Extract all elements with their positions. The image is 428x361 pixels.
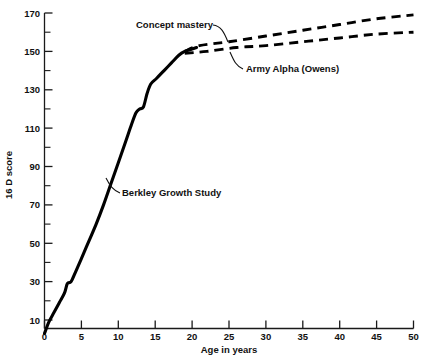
y-tick-label: 170 xyxy=(24,8,40,19)
x-tick-label: 25 xyxy=(224,331,235,342)
army-alpha-leader-line xyxy=(230,52,243,69)
concept-mastery-leader-line xyxy=(213,25,228,42)
x-tick-label: 20 xyxy=(187,331,198,342)
annotation-concept-mastery: Concept mastery xyxy=(136,19,214,30)
series-group xyxy=(45,15,414,334)
x-tick-labels: 0 5 10 15 20 25 30 35 40 45 50 xyxy=(42,331,419,342)
annotation-berkley-growth-study: Berkley Growth Study xyxy=(122,187,222,198)
annotation-army-alpha-owens: Army Alpha (Owens) xyxy=(246,63,339,74)
y-tick-label: 30 xyxy=(29,276,40,287)
y-tick-label: 130 xyxy=(24,84,40,95)
chart-svg: 170 150 130 110 90 70 50 30 10 0 xyxy=(0,0,428,361)
x-tick-label: 45 xyxy=(371,331,382,342)
y-tick-labels: 170 150 130 110 90 70 50 30 10 xyxy=(24,8,40,326)
x-tick-label: 10 xyxy=(113,331,124,342)
x-ticks-group xyxy=(45,321,414,329)
y-tick-label: 150 xyxy=(24,46,40,57)
y-tick-label: 50 xyxy=(29,238,40,249)
y-axis-title: 16 D score xyxy=(3,151,14,199)
y-tick-label: 90 xyxy=(29,161,40,172)
x-tick-label: 50 xyxy=(408,331,419,342)
x-tick-label: 15 xyxy=(150,331,161,342)
chart-figure: 170 150 130 110 90 70 50 30 10 0 xyxy=(0,0,428,361)
annotation-labels: Concept mastery Army Alpha (Owens) Berkl… xyxy=(122,19,339,198)
y-tick-label: 110 xyxy=(25,123,40,134)
y-ticks-group xyxy=(45,13,53,320)
x-tick-label: 30 xyxy=(261,331,272,342)
axes-group xyxy=(45,13,414,329)
x-tick-label: 40 xyxy=(334,331,345,342)
x-tick-label: 35 xyxy=(298,331,309,342)
x-tick-label: 5 xyxy=(79,331,85,342)
y-tick-label: 70 xyxy=(29,199,40,210)
y-tick-label: 10 xyxy=(29,315,40,326)
x-axis-title: Age in years xyxy=(201,344,258,355)
